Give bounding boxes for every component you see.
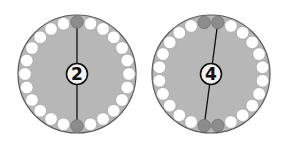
white-dot — [225, 116, 238, 129]
white-dot — [34, 104, 47, 117]
white-dot — [20, 54, 33, 67]
white-dot — [121, 81, 134, 94]
gray-dot — [71, 16, 84, 29]
circle-diagrams-canvas: 24 — [0, 0, 289, 152]
white-dot — [97, 113, 110, 126]
white-dot — [253, 48, 266, 61]
white-dot — [253, 88, 266, 101]
white-dot — [256, 61, 269, 74]
white-dot — [153, 61, 166, 74]
white-dot — [236, 26, 249, 39]
gray-dot — [71, 120, 84, 133]
gray-dot — [211, 16, 224, 29]
white-dot — [84, 17, 97, 30]
number-badge-label: 4 — [205, 64, 217, 84]
white-dot — [157, 88, 170, 101]
white-dot — [26, 42, 39, 55]
white-dot — [107, 104, 120, 117]
white-dot — [123, 68, 136, 81]
white-dot — [163, 99, 176, 112]
gray-dot — [198, 16, 211, 29]
white-dot — [116, 42, 129, 55]
white-dot — [173, 109, 186, 122]
gray-dot — [211, 119, 224, 132]
numbered-circle-diagram: 4 — [152, 15, 270, 133]
white-dot — [19, 68, 32, 81]
white-dot — [20, 81, 33, 94]
white-dot — [246, 99, 259, 112]
white-dot — [97, 23, 110, 36]
white-dot — [116, 94, 129, 107]
white-dot — [107, 31, 120, 44]
white-dot — [57, 118, 70, 131]
numbered-circle-diagram: 2 — [18, 15, 136, 133]
white-dot — [153, 74, 166, 87]
white-dot — [225, 20, 238, 33]
number-badge-label: 2 — [71, 64, 83, 84]
white-dot — [34, 31, 47, 44]
white-dot — [121, 54, 134, 67]
white-dot — [163, 36, 176, 49]
white-dot — [185, 20, 198, 33]
white-dot — [57, 17, 70, 30]
white-dot — [26, 94, 39, 107]
white-dot — [236, 109, 249, 122]
diagram-stage: 24 — [0, 0, 289, 152]
gray-dot — [198, 119, 211, 132]
white-dot — [84, 118, 97, 131]
white-dot — [45, 23, 58, 36]
white-dot — [45, 113, 58, 126]
white-dot — [256, 74, 269, 87]
white-dot — [173, 26, 186, 39]
white-dot — [185, 116, 198, 129]
white-dot — [246, 36, 259, 49]
white-dot — [157, 48, 170, 61]
